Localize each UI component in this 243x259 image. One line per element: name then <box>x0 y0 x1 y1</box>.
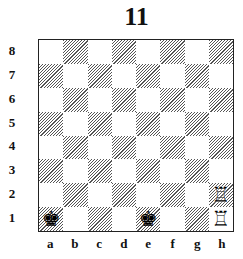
square-f5 <box>160 112 184 136</box>
square-h1: ♖ <box>209 207 233 231</box>
square-a5 <box>39 112 63 136</box>
square-f8 <box>160 40 184 64</box>
square-c3 <box>88 159 112 183</box>
square-d6 <box>112 88 136 112</box>
square-h8 <box>209 40 233 64</box>
square-e1: ♚ <box>136 207 160 231</box>
file-label: f <box>161 236 186 252</box>
square-a1: ♚ <box>39 207 63 231</box>
square-b1 <box>63 207 87 231</box>
square-b4 <box>63 136 87 160</box>
file-label: e <box>136 236 161 252</box>
square-e7 <box>136 64 160 88</box>
square-f7 <box>160 64 184 88</box>
rank-label: 3 <box>0 158 20 182</box>
square-a3 <box>39 159 63 183</box>
square-f3 <box>160 159 184 183</box>
square-c8 <box>88 40 112 64</box>
square-d7 <box>112 64 136 88</box>
square-d3 <box>112 159 136 183</box>
square-d4 <box>112 136 136 160</box>
square-b6 <box>63 88 87 112</box>
white-rook-icon: ♖ <box>211 185 230 206</box>
square-g8 <box>185 40 209 64</box>
square-g1 <box>185 207 209 231</box>
square-g5 <box>185 112 209 136</box>
rank-label: 1 <box>0 206 20 230</box>
rank-labels: 8 7 6 5 4 3 2 1 <box>0 39 20 230</box>
square-f1 <box>160 207 184 231</box>
square-g7 <box>185 64 209 88</box>
square-c6 <box>88 88 112 112</box>
square-g4 <box>185 136 209 160</box>
square-a6 <box>39 88 63 112</box>
square-c4 <box>88 136 112 160</box>
file-labels: a b c d e f g h <box>38 236 234 252</box>
square-g6 <box>185 88 209 112</box>
rank-label: 4 <box>0 135 20 159</box>
square-h4 <box>209 136 233 160</box>
square-h7 <box>209 64 233 88</box>
rank-label: 7 <box>0 63 20 87</box>
square-c7 <box>88 64 112 88</box>
square-e4 <box>136 136 160 160</box>
square-h2: ♖ <box>209 183 233 207</box>
file-label: g <box>185 236 210 252</box>
black-king-icon: ♚ <box>42 209 61 230</box>
rank-label: 8 <box>0 39 20 63</box>
square-f6 <box>160 88 184 112</box>
square-h5 <box>209 112 233 136</box>
rank-label: 5 <box>0 111 20 135</box>
square-d8 <box>112 40 136 64</box>
square-a2 <box>39 183 63 207</box>
square-e6 <box>136 88 160 112</box>
square-e3 <box>136 159 160 183</box>
square-b5 <box>63 112 87 136</box>
file-label: a <box>38 236 63 252</box>
square-f4 <box>160 136 184 160</box>
square-g2 <box>185 183 209 207</box>
square-a8 <box>39 40 63 64</box>
square-e2 <box>136 183 160 207</box>
square-d2 <box>112 183 136 207</box>
square-h6 <box>209 88 233 112</box>
file-label: h <box>210 236 235 252</box>
square-c2 <box>88 183 112 207</box>
square-b8 <box>63 40 87 64</box>
square-e8 <box>136 40 160 64</box>
black-king-icon: ♚ <box>139 209 158 230</box>
square-g3 <box>185 159 209 183</box>
square-c1 <box>88 207 112 231</box>
square-f2 <box>160 183 184 207</box>
file-label: b <box>63 236 88 252</box>
square-d1 <box>112 207 136 231</box>
file-label: d <box>112 236 137 252</box>
square-a7 <box>39 64 63 88</box>
square-b7 <box>63 64 87 88</box>
square-e5 <box>136 112 160 136</box>
white-rook-icon: ♖ <box>211 209 230 230</box>
chess-board: ♖♚♚♖ <box>38 39 234 232</box>
diagram-number: 11 <box>0 2 243 32</box>
file-label: c <box>87 236 112 252</box>
square-b2 <box>63 183 87 207</box>
rank-label: 6 <box>0 87 20 111</box>
square-a4 <box>39 136 63 160</box>
square-d5 <box>112 112 136 136</box>
rank-label: 2 <box>0 182 20 206</box>
square-b3 <box>63 159 87 183</box>
square-h3 <box>209 159 233 183</box>
square-c5 <box>88 112 112 136</box>
